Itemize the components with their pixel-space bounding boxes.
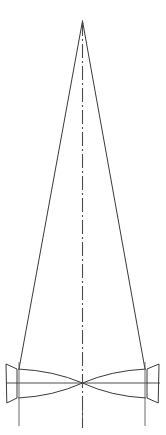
optical-diagram-canvas xyxy=(0,0,166,435)
optical-ray-diagram xyxy=(0,0,166,435)
